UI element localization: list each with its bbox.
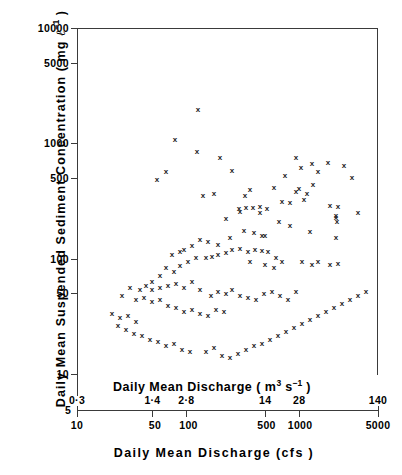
data-point-marker: x	[262, 290, 266, 298]
data-point-marker: x	[228, 354, 232, 362]
data-point-marker: x	[326, 159, 330, 167]
x-axis-metric-title: Daily Mean Discharge ( m3 s−1 )	[0, 378, 402, 394]
data-point-marker: x	[220, 352, 224, 360]
data-point-marker: x	[178, 262, 182, 270]
data-point-marker: x	[158, 272, 162, 280]
data-point-marker: x	[332, 304, 336, 312]
data-point-marker: x	[335, 218, 339, 226]
data-point-marker: x	[224, 215, 228, 223]
data-point-marker: x	[190, 306, 194, 314]
data-point-marker: x	[182, 246, 186, 254]
data-point-marker: x	[209, 292, 213, 300]
data-point-marker: x	[214, 306, 218, 314]
data-point-marker: x	[242, 227, 246, 235]
data-point-marker: x	[336, 260, 340, 268]
data-point-marker: x	[276, 332, 280, 340]
data-point-marker: x	[260, 340, 264, 348]
data-point-marker: x	[270, 288, 274, 296]
data-point-marker: x	[150, 298, 154, 306]
data-point-marker: x	[297, 185, 301, 193]
x-axis-metric-tick-label: 28	[293, 394, 305, 406]
data-point-marker: x	[238, 245, 242, 253]
y-axis-tick-label: 1000	[44, 138, 69, 149]
x-axis-metric-tick-label: 140	[369, 394, 387, 406]
data-point-marker: x	[300, 320, 304, 328]
data-point-marker: x	[253, 246, 257, 254]
data-point-marker: x	[164, 264, 168, 272]
x-metric-title-main: Daily Mean Discharge ( m	[113, 380, 276, 394]
data-point-marker: x	[243, 192, 247, 200]
data-point-marker: x	[340, 300, 344, 308]
data-point-marker: x	[201, 192, 205, 200]
data-point-marker: x	[212, 344, 216, 352]
plot-frame	[77, 28, 378, 375]
scatter-plot-figure: Daily Mean Suspended Sediment Concentrat…	[0, 0, 402, 475]
data-point-marker: x	[310, 160, 314, 168]
data-point-marker: x	[236, 350, 240, 358]
data-point-marker: x	[364, 288, 368, 296]
data-point-marker: x	[228, 234, 232, 242]
data-point-marker: x	[128, 284, 132, 292]
data-point-marker: x	[198, 236, 202, 244]
data-point-marker: x	[156, 338, 160, 346]
data-point-marker: x	[316, 168, 320, 176]
x-axis-cfs-tick-label: 500	[257, 419, 275, 431]
data-point-marker: x	[224, 249, 228, 257]
data-point-marker: x	[292, 324, 296, 332]
x-axis-metric-tick-mark	[265, 410, 266, 417]
data-point-marker: x	[286, 296, 290, 304]
x-axis-cfs-tick-label: 100	[179, 419, 197, 431]
data-point-marker: x	[182, 308, 186, 316]
x-axis-metric-tick-mark	[299, 410, 300, 417]
data-point-marker: x	[150, 286, 154, 294]
data-point-marker: x	[280, 258, 284, 266]
data-point-marker: x	[158, 296, 162, 304]
data-point-marker: x	[134, 318, 138, 326]
data-point-marker: x	[308, 316, 312, 324]
data-point-marker: x	[284, 328, 288, 336]
x-metric-title-mid: s	[281, 380, 292, 394]
data-point-marker: x	[252, 342, 256, 350]
data-point-marker: x	[186, 258, 190, 266]
data-point-marker: x	[204, 348, 208, 356]
y-axis-spine	[77, 28, 78, 396]
data-point-marker: x	[260, 232, 264, 240]
data-point-marker: x	[198, 310, 202, 318]
data-point-marker: x	[182, 284, 186, 292]
data-point-marker: x	[356, 209, 360, 217]
data-point-marker: x	[190, 242, 194, 250]
y-axis-tick-label: 100	[50, 254, 69, 265]
data-point-marker: x	[268, 336, 272, 344]
data-point-marker: x	[144, 282, 148, 290]
data-point-marker: x	[212, 190, 216, 198]
data-point-marker: x	[272, 184, 276, 192]
x-axis-metric-tick-label: 0·3	[69, 394, 85, 406]
data-point-marker: x	[172, 340, 176, 348]
data-point-marker: x	[356, 292, 360, 300]
data-point-marker: x	[328, 202, 332, 210]
data-point-marker: x	[172, 268, 176, 276]
data-point-marker: x	[294, 154, 298, 162]
data-point-marker: x	[328, 261, 332, 269]
y-axis-title-main: Daily Mean Suspended Sediment Concentrat…	[54, 36, 68, 407]
data-point-marker: x	[218, 154, 222, 162]
data-point-marker: x	[116, 322, 120, 330]
data-point-marker: x	[120, 292, 124, 300]
x-metric-exp-time: −1	[293, 378, 303, 388]
data-point-marker: x	[252, 229, 256, 237]
data-point-marker: x	[110, 310, 114, 318]
data-point-marker: x	[206, 312, 210, 320]
data-point-marker: x	[350, 174, 354, 182]
x-axis-right-cap	[378, 406, 379, 417]
data-point-marker: x	[316, 258, 320, 266]
data-point-marker: x	[272, 264, 276, 272]
y-axis-tick-label: 10000	[38, 23, 69, 34]
data-point-marker: x	[299, 164, 303, 172]
data-point-marker: x	[244, 204, 248, 212]
data-point-marker: x	[134, 296, 138, 304]
x-axis-metric-tick-label: 14	[259, 394, 271, 406]
data-point-marker: x	[334, 234, 338, 242]
data-point-marker: x	[174, 304, 178, 312]
data-point-marker: x	[188, 348, 192, 356]
data-point-marker: x	[342, 162, 346, 170]
